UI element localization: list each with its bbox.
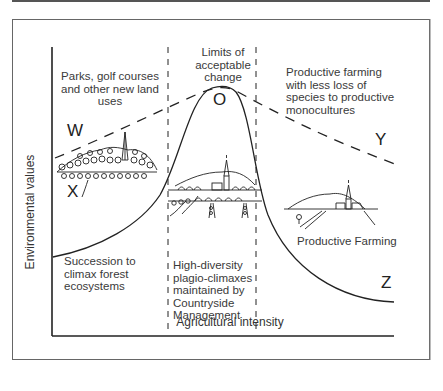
label-productive-farming: Productive Farming: [297, 235, 417, 248]
productive-farm-illustration: [284, 180, 378, 229]
point-o: O: [213, 94, 226, 107]
village-illustration: [168, 155, 262, 218]
label-high-diversity-plagio-climaxes: High-diversity plagio-climaxes maintaine…: [173, 259, 255, 322]
label-succession-to-climax-forest: Succession to climax forest ecosystems: [64, 255, 150, 293]
x-axis-label: Agricultural intensity: [160, 315, 300, 329]
label-productive-farming-less-loss: Productive farming with less loss of spe…: [286, 66, 404, 116]
label-limits-of-acceptable-change: Limits of acceptable change: [188, 46, 258, 84]
label-parks-golf-courses: Parks, golf courses and other new land u…: [56, 70, 164, 108]
y-axis-label: Environmental values: [23, 142, 37, 282]
point-y: Y: [375, 134, 386, 147]
point-x: X: [67, 186, 78, 199]
point-w: W: [67, 125, 83, 138]
point-z: Z: [381, 277, 391, 290]
